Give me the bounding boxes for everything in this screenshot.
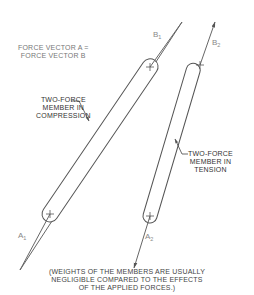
footnote-line-3: OF THE APPLIED FORCES.) bbox=[0, 284, 254, 292]
label-line: COMPRESSION bbox=[36, 112, 91, 120]
compression-member-label: TWO-FORCE MEMBER IN COMPRESSION bbox=[36, 96, 91, 120]
point-a1-label: A1 bbox=[18, 231, 26, 241]
point-b2-label: B2 bbox=[212, 38, 220, 48]
point-b1-label: B1 bbox=[153, 30, 161, 40]
label-line: TENSION bbox=[188, 166, 233, 174]
label-line: TWO-FORCE bbox=[36, 96, 91, 104]
weights-footnote: (WEIGHTS OF THE MEMBERS ARE USUALLY NEGL… bbox=[0, 268, 254, 292]
force-equality-note: FORCE VECTOR A = FORCE VECTOR B bbox=[18, 44, 89, 60]
force-note-line-2: FORCE VECTOR B bbox=[18, 52, 89, 60]
tension-member-label: TWO-FORCE MEMBER IN TENSION bbox=[188, 150, 233, 174]
label-line: MEMBER IN bbox=[188, 158, 233, 166]
force-note-line-1: FORCE VECTOR A = bbox=[18, 44, 89, 52]
label-line: MEMBER IN bbox=[36, 104, 91, 112]
footnote-line-2: NEGLIGIBLE COMPARED TO THE EFFECTS bbox=[0, 276, 254, 284]
footnote-line-1: (WEIGHTS OF THE MEMBERS ARE USUALLY bbox=[0, 268, 254, 276]
point-a2-label: A2 bbox=[145, 232, 153, 242]
label-line: TWO-FORCE bbox=[188, 150, 233, 158]
